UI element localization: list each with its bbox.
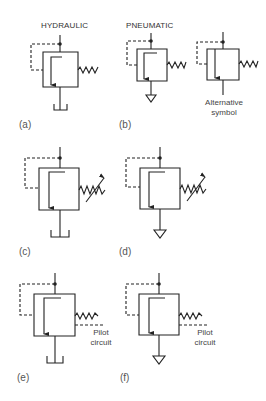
panel-label-c: (c): [19, 246, 31, 257]
pilot-circuit-note-e: Pilot circuit: [86, 328, 116, 348]
valve-symbol-f: [126, 273, 208, 364]
note-line-2: symbol: [204, 108, 244, 118]
adjustable-spring-icon: [79, 186, 105, 194]
relief-valve-symbols-diagram: [0, 0, 266, 401]
spring-icon: [239, 61, 258, 67]
note-line-1: Alternative: [204, 98, 244, 108]
hydraulic-header: HYDRAULIC: [41, 21, 88, 30]
valve-symbol-a: [31, 35, 98, 110]
note-line-1: Pilot: [86, 328, 116, 338]
flow-path-arrow: [51, 57, 62, 85]
panel-label-d: (d): [119, 246, 131, 257]
spring-icon: [179, 313, 202, 319]
panel-label-b: (b): [119, 119, 131, 130]
note-line-2: circuit: [190, 338, 220, 348]
valve-body: [207, 49, 239, 80]
pilot-circuit-note-f: Pilot circuit: [190, 328, 220, 348]
valve-body: [34, 294, 75, 336]
valve-symbol-b-alternative: [197, 32, 258, 95]
spring-icon: [75, 313, 98, 319]
note-line-2: circuit: [86, 338, 116, 348]
exhaust-triangle-icon: [153, 356, 165, 364]
panel-label-f: (f): [120, 372, 129, 383]
valve-symbol-c: [25, 147, 105, 237]
pneumatic-header: PNEUMATIC: [126, 21, 173, 30]
pilot-dashed-line: [126, 284, 159, 315]
alternative-symbol-note: Alternative symbol: [204, 98, 244, 118]
flow-path-arrow: [49, 172, 65, 208]
note-line-1: Pilot: [190, 328, 220, 338]
spring-icon: [78, 67, 98, 73]
panel-label-a: (a): [19, 119, 31, 130]
valve-body: [139, 294, 179, 335]
pilot-dashed-line: [25, 158, 60, 188]
valve-body: [137, 49, 167, 81]
flow-path-arrow: [44, 298, 61, 334]
flow-path-arrow: [149, 298, 165, 333]
exhaust-triangle-icon: [146, 95, 156, 102]
exhaust-triangle-icon: [154, 230, 166, 238]
pilot-dashed-line: [197, 42, 223, 64]
valve-symbol-e: [20, 273, 103, 363]
spring-icon: [167, 62, 186, 68]
valve-body: [140, 168, 180, 209]
flow-path-arrow: [144, 53, 157, 79]
pilot-dashed-line: [20, 284, 55, 315]
valve-symbol-b: [127, 33, 186, 102]
valve-symbol-d: [126, 147, 206, 238]
flow-path-arrow: [149, 172, 165, 207]
adjustable-spring-icon: [180, 185, 206, 193]
panel-label-e: (e): [17, 372, 29, 383]
valve-body: [39, 168, 79, 210]
